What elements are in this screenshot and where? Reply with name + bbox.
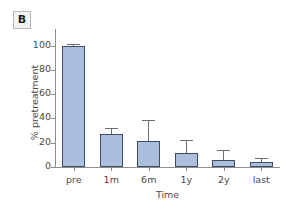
plot-area: 020406080100 pre1m6m1y2ylast bbox=[55, 36, 280, 167]
y-tick-label: 20 bbox=[21, 136, 51, 147]
y-tick-label: 0 bbox=[21, 160, 51, 171]
error-bar-cap bbox=[105, 128, 118, 129]
error-bar-cap bbox=[142, 120, 155, 121]
y-tick-mark bbox=[51, 46, 55, 47]
figure-panel-b: B % pretreatment 020406080100 pre1m6m1y2… bbox=[0, 0, 299, 212]
x-tick-mark bbox=[74, 167, 75, 171]
y-axis-spine bbox=[55, 29, 56, 167]
bar-group bbox=[175, 36, 198, 167]
bar-group bbox=[212, 36, 235, 167]
bar-group bbox=[62, 36, 85, 167]
y-tick-label: 100 bbox=[21, 39, 51, 50]
error-bar-cap bbox=[180, 140, 193, 141]
x-tick-mark bbox=[261, 167, 262, 171]
error-bar-line bbox=[148, 120, 149, 141]
bar-group bbox=[137, 36, 160, 167]
y-tick-mark bbox=[51, 70, 55, 71]
bar[interactable] bbox=[100, 134, 123, 167]
error-bar-cap bbox=[255, 158, 268, 159]
y-tick-mark bbox=[51, 143, 55, 144]
bar[interactable] bbox=[137, 141, 160, 167]
y-tick-label: 60 bbox=[21, 87, 51, 98]
y-tick-mark bbox=[51, 94, 55, 95]
bar[interactable] bbox=[175, 153, 198, 167]
x-tick-mark bbox=[186, 167, 187, 171]
error-bar-line bbox=[186, 140, 187, 153]
y-tick-label: 40 bbox=[21, 111, 51, 122]
x-tick-mark bbox=[149, 167, 150, 171]
bar[interactable] bbox=[62, 46, 85, 167]
x-tick-mark bbox=[111, 167, 112, 171]
panel-label: B bbox=[13, 11, 31, 29]
x-tick-mark bbox=[224, 167, 225, 171]
bar-group bbox=[250, 36, 273, 167]
y-tick-mark bbox=[51, 167, 55, 168]
bar[interactable] bbox=[212, 160, 235, 167]
x-axis-spine bbox=[55, 167, 280, 168]
bar-group bbox=[100, 36, 123, 167]
y-tick-label: 80 bbox=[21, 63, 51, 74]
x-tick-label: last bbox=[236, 174, 286, 185]
x-axis-label: Time bbox=[55, 189, 280, 200]
y-tick-mark bbox=[51, 118, 55, 119]
error-bar-line bbox=[223, 150, 224, 160]
error-bar-cap bbox=[217, 150, 230, 151]
